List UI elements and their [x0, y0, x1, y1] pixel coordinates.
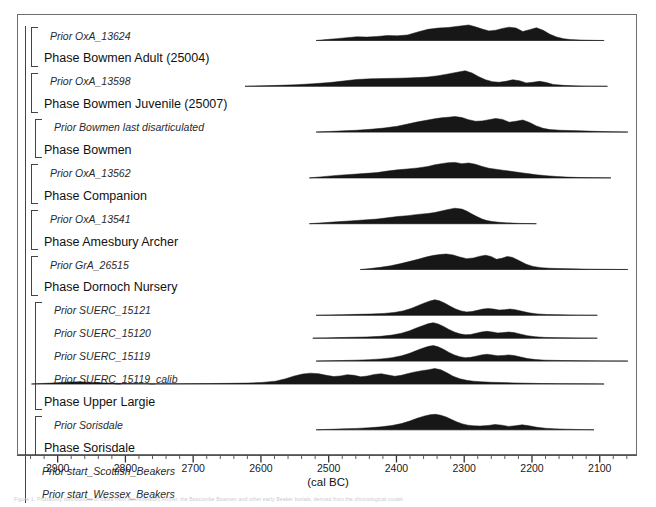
- chart-row: Prior SUERC_15119_calib: [18, 368, 636, 391]
- chart-row: Phase Amesbury Archer: [18, 230, 636, 253]
- phase-label: Phase Bowmen Juvenile (25007): [44, 98, 227, 111]
- prior-label: Prior OxA_13624: [50, 30, 131, 41]
- prior-label: Prior GrA_26515: [50, 259, 129, 270]
- prior-label: Prior OxA_13541: [50, 213, 131, 224]
- tick-label: 2900: [46, 462, 69, 474]
- figure-caption: Figure 1. Probability distributions of d…: [14, 496, 644, 502]
- prior-label: Prior SUERC_15119: [54, 351, 150, 362]
- prior-label: Prior OxA_13598: [50, 76, 131, 87]
- chart-row: Prior GrA_26515: [18, 253, 636, 276]
- tick-label: 2100: [588, 462, 611, 474]
- phase-label: Phase Amesbury Archer: [44, 235, 178, 248]
- chart-row: Prior SUERC_15121: [18, 299, 636, 322]
- chart-row: Prior Bowmen last disarticulated: [18, 116, 636, 139]
- chart-row: Prior OxA_13541: [18, 207, 636, 230]
- phase-label: Phase Bowmen: [44, 144, 132, 157]
- chart-row: Prior OxA_13562: [18, 161, 636, 184]
- oxcal-probability-figure: Prior OxA_13624Phase Bowmen Adult (25004…: [0, 0, 656, 507]
- prior-label: Prior SUERC_15121: [54, 305, 151, 316]
- tick-label: 2800: [114, 462, 137, 474]
- chart-row: Phase Upper Largie: [18, 390, 636, 413]
- phase-label: Phase Dornoch Nursery: [44, 281, 177, 294]
- tick-label: 2700: [181, 462, 204, 474]
- chart-row: Phase Bowmen Adult (25004): [18, 47, 636, 70]
- axis-title: (cal BC): [0, 476, 656, 488]
- chart-row: Prior OxA_13624: [18, 24, 636, 47]
- phase-label: Phase Companion: [44, 190, 147, 203]
- phase-label: Phase Bowmen Adult (25004): [44, 52, 209, 65]
- chart-row: Prior SUERC_15120: [18, 322, 636, 345]
- tick-label: 2400: [385, 462, 408, 474]
- tick-label: 2600: [249, 462, 272, 474]
- chart-row: Phase Bowmen: [18, 139, 636, 162]
- tick-label: 2500: [317, 462, 340, 474]
- prior-label: Prior SUERC_15119_calib: [54, 374, 178, 385]
- chart-row: Prior SUERC_15119: [18, 345, 636, 368]
- plot-frame: Prior OxA_13624Phase Bowmen Adult (25004…: [17, 14, 637, 455]
- prior-label: Prior Sorisdale: [54, 420, 123, 431]
- chart-row: Prior OxA_13598: [18, 70, 636, 93]
- tick-label: 2200: [520, 462, 543, 474]
- tick-label: 2300: [453, 462, 476, 474]
- chart-row: Phase Dornoch Nursery: [18, 276, 636, 299]
- chart-row: Phase Companion: [18, 184, 636, 207]
- prior-label: Prior Bowmen last disarticulated: [54, 122, 204, 133]
- prior-label: Prior OxA_13562: [50, 168, 131, 179]
- chart-row: Prior Sorisdale: [18, 413, 636, 436]
- prior-label: Prior SUERC_15120: [54, 328, 151, 339]
- chart-row: Phase Bowmen Juvenile (25007): [18, 93, 636, 116]
- phase-label: Phase Upper Largie: [44, 396, 155, 409]
